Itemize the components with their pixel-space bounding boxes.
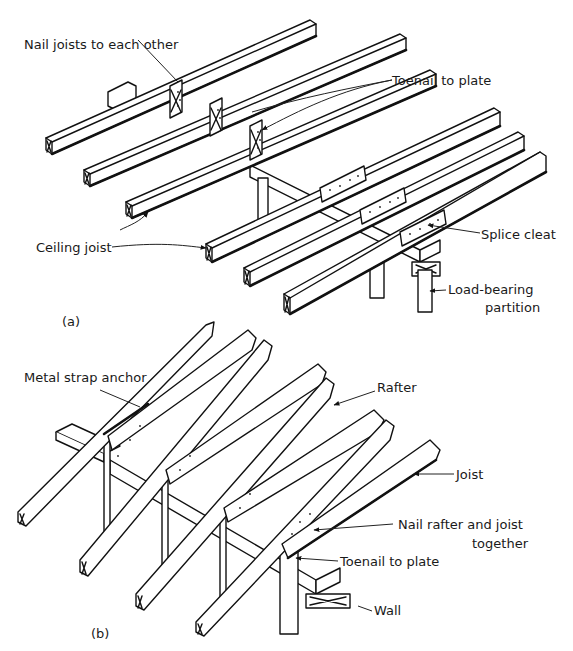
leader-toenail-b [296,558,338,561]
label-joist: Joist [456,467,483,482]
caption-b: (b) [91,626,109,641]
caption-a: (a) [62,314,80,329]
lap-joint-2 [210,98,222,136]
label-toenail-plate-a: Toenail to plate [392,73,491,88]
leader-rafter [334,391,375,405]
part-a-drawing [46,20,546,314]
label-together: together [472,536,528,551]
framing-diagram [0,0,573,651]
label-metal-strap-anchor: Metal strap anchor [24,370,146,385]
label-ceiling-joist: Ceiling joist [36,240,112,255]
label-nail-rafter-joist: Nail rafter and joist [398,517,523,532]
label-nail-joists: Nail joists to each other [24,37,178,52]
lap-joint-3 [250,120,262,160]
leader-ceiling-joist-2 [112,244,206,248]
label-rafter: Rafter [377,380,417,395]
lap-joint-1 [170,80,182,118]
label-splice-cleat: Splice cleat [481,227,556,242]
label-wall: Wall [374,603,401,618]
label-partition: partition [485,300,540,315]
leader-wall [358,606,372,611]
label-toenail-plate-b: Toenail to plate [340,554,439,569]
label-load-bearing: Load-bearing [448,282,534,297]
